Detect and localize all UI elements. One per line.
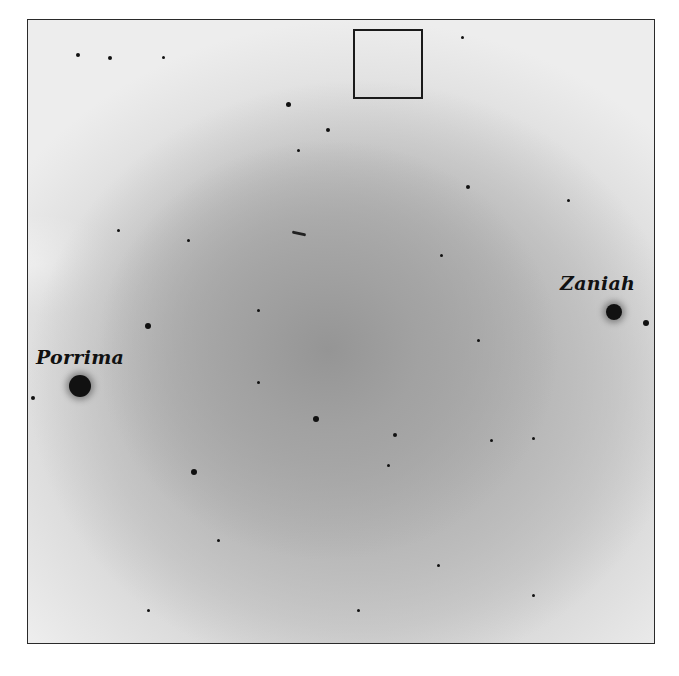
star	[145, 323, 151, 329]
star	[326, 128, 330, 132]
star	[532, 437, 535, 440]
star	[257, 381, 260, 384]
star	[191, 469, 197, 475]
star	[532, 594, 535, 597]
star	[357, 609, 360, 612]
star	[76, 53, 80, 57]
star	[217, 539, 220, 542]
highlight-square	[353, 29, 423, 99]
star	[643, 320, 649, 326]
star	[162, 56, 165, 59]
label-zaniah: Zaniah	[560, 272, 635, 294]
star	[117, 229, 120, 232]
porrima-star	[69, 375, 91, 397]
star	[440, 254, 443, 257]
star	[108, 56, 112, 60]
caption	[28, 664, 658, 676]
star	[147, 609, 150, 612]
star	[31, 396, 35, 400]
sky-photo-frame: Porrima Zaniah	[27, 19, 655, 644]
star	[257, 309, 260, 312]
star	[490, 439, 493, 442]
star	[297, 149, 300, 152]
zaniah-star	[606, 304, 622, 320]
star	[477, 339, 480, 342]
star	[313, 416, 319, 422]
star	[393, 433, 397, 437]
star	[286, 102, 291, 107]
star	[466, 185, 470, 189]
satellite-streak	[292, 231, 306, 237]
label-porrima: Porrima	[36, 346, 124, 368]
star	[437, 564, 440, 567]
star	[387, 464, 390, 467]
star	[461, 36, 464, 39]
star	[187, 239, 190, 242]
star	[567, 199, 570, 202]
